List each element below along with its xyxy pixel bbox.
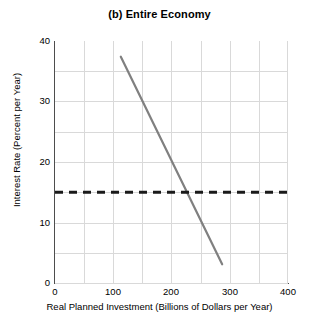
y-tick-30: 30 bbox=[24, 96, 50, 106]
x-tick-400: 400 bbox=[268, 287, 308, 297]
x-tick-0: 0 bbox=[35, 287, 75, 297]
y-axis-tick-labels: 40 30 20 10 0 bbox=[21, 0, 50, 327]
y-tick-10: 10 bbox=[24, 218, 50, 228]
x-axis-label: Real Planned Investment (Billions of Dol… bbox=[0, 302, 319, 312]
x-tick-200: 200 bbox=[151, 287, 191, 297]
plot-area bbox=[55, 41, 288, 283]
y-tick-20: 20 bbox=[24, 157, 50, 167]
x-tick-100: 100 bbox=[93, 287, 133, 297]
series-layer bbox=[55, 41, 288, 283]
investment-demand-line bbox=[121, 57, 222, 265]
y-tick-40: 40 bbox=[24, 36, 50, 46]
x-tick-300: 300 bbox=[210, 287, 250, 297]
chart-figure: (b) Entire Economy 40 30 20 10 0 0 100 2… bbox=[0, 0, 319, 327]
gridline-horizontal bbox=[55, 283, 288, 284]
y-axis-label: Interest Rate (Percent per Year) bbox=[12, 45, 22, 235]
